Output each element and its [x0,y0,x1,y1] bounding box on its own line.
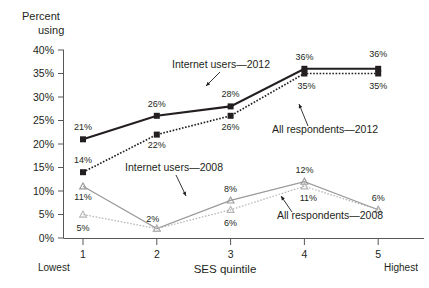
data-point-marker [375,71,381,77]
y-tick-label: 20% [33,138,54,150]
data-point-label: 21% [74,122,92,132]
data-point-marker [154,113,160,119]
x-tick-label: 5 [375,248,381,260]
data-point-marker [228,103,234,109]
data-label-layer: 21%26%28%36%36%14%22%26%35%35%11%2%8%12%… [74,49,387,233]
data-point-marker [301,71,307,77]
data-point-label: 36% [295,52,313,62]
data-point-label: 6% [372,193,385,203]
data-point-label: 11% [300,193,317,203]
data-point-label: 14% [74,155,92,165]
y-tick-label: 10% [33,185,54,197]
data-point-label: 35% [369,81,387,91]
x-axis-tick-group: 12345 [80,238,381,260]
x-axis-highest-label: Highest [384,262,418,273]
data-point-label: 2% [146,214,159,224]
y-tick-label: 0% [39,232,54,244]
y-axis-title-line1: Percent [22,10,60,22]
data-point-marker [80,169,86,175]
x-tick-label: 2 [154,248,160,260]
series-annotation-label: All respondents—2012 [272,123,378,135]
data-point-label: 8% [224,184,237,194]
data-point-label: 28% [222,89,240,99]
data-point-label: 26% [222,122,240,132]
data-point-label: 36% [369,49,387,59]
y-tick-label: 15% [33,161,54,173]
data-point-marker [154,132,160,138]
chart-container: Percent using 0%5%10%15%20%25%30%35%40% … [0,0,429,288]
y-tick-label: 40% [33,44,54,56]
x-tick-label: 4 [301,248,307,260]
data-point-label: 26% [148,99,166,109]
y-tick-label: 5% [39,208,54,220]
y-axis-title-line2: using [38,24,64,36]
y-tick-label: 25% [33,114,54,126]
series-annotation-label: All respondents—2008 [277,209,383,221]
annotation-arrowhead [281,196,285,200]
data-point-label: 35% [297,81,315,91]
data-point-marker [228,113,234,119]
data-point-label: 11% [74,192,91,202]
series-annotation-label: Internet users—2008 [125,161,223,173]
x-tick-label: 1 [80,248,86,260]
data-point-label: 22% [148,140,166,150]
line-chart: Percent using 0%5%10%15%20%25%30%35%40% … [0,0,429,288]
series-annotation-label: Internet users—2012 [172,58,270,70]
data-point-marker [80,211,87,217]
data-point-marker [80,136,86,142]
data-point-label: 5% [76,223,89,233]
y-tick-label: 30% [33,91,54,103]
y-axis-tick-group: 0%5%10%15%20%25%30%35%40% [33,44,64,244]
data-point-label: 12% [295,165,313,175]
y-tick-label: 35% [33,67,54,79]
x-tick-label: 3 [228,248,234,260]
data-point-marker [80,183,87,189]
x-axis-title: SES quintile [194,263,257,275]
x-axis-lowest-label: Lowest [38,262,70,273]
data-point-label: 6% [224,218,237,228]
